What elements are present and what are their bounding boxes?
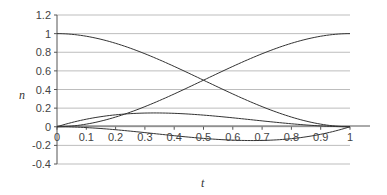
x-axis-ticks: 00.10.20.30.40.50.60.70.80.91 — [54, 127, 353, 143]
y-tick-label: 0.2 — [36, 102, 51, 114]
x-tick-label: 0.1 — [79, 131, 94, 143]
y-tick-label: 1.2 — [36, 9, 51, 21]
x-axis-label: t — [201, 176, 205, 190]
y-tick-label: -0.2 — [32, 139, 51, 151]
x-tick-label: 0.9 — [313, 131, 328, 143]
x-tick-label: 0.2 — [108, 131, 123, 143]
y-tick-label: 1 — [45, 28, 51, 40]
y-axis-label: n — [19, 88, 25, 102]
y-axis-ticks: 1.210.80.60.40.20-0.2-0.4 — [32, 9, 51, 170]
x-tick-label: 0.6 — [225, 131, 240, 143]
x-tick-label: 0.8 — [284, 131, 299, 143]
hermite-basis-chart: 1.210.80.60.40.20-0.2-0.4 00.10.20.30.40… — [0, 0, 387, 195]
data-series — [57, 34, 350, 141]
y-tick-label: 0.8 — [36, 46, 51, 58]
series-line-h01 — [57, 34, 350, 127]
x-tick-label: 1 — [347, 131, 353, 143]
x-tick-label: 0.4 — [167, 131, 182, 143]
y-tick-label: 0.6 — [36, 65, 51, 77]
y-tick-label: 0.4 — [36, 84, 51, 96]
y-tick-label: 0 — [45, 121, 51, 133]
y-tick-label: -0.4 — [32, 158, 51, 170]
x-tick-label: 0.5 — [196, 131, 211, 143]
series-line-h10 — [57, 113, 350, 127]
